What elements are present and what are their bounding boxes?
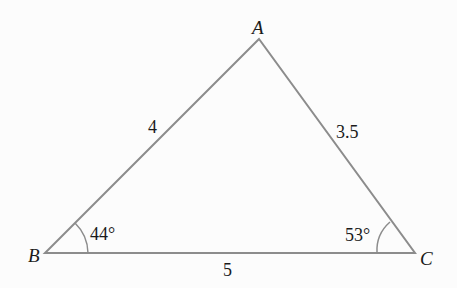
vertex-label-b: B — [28, 245, 40, 266]
angle-label-b: 44° — [90, 224, 115, 244]
side-label-ac: 3.5 — [336, 122, 359, 142]
triangle-abc — [45, 39, 415, 253]
triangle-diagram: A B C 4 3.5 5 44° 53° — [0, 0, 457, 288]
angle-arc-b — [75, 223, 88, 253]
side-label-ab: 4 — [148, 117, 157, 137]
angle-label-c: 53° — [345, 225, 370, 245]
vertex-label-a: A — [250, 17, 264, 38]
angle-arc-c — [377, 222, 390, 253]
side-label-bc: 5 — [223, 260, 232, 280]
vertex-label-c: C — [420, 248, 433, 269]
